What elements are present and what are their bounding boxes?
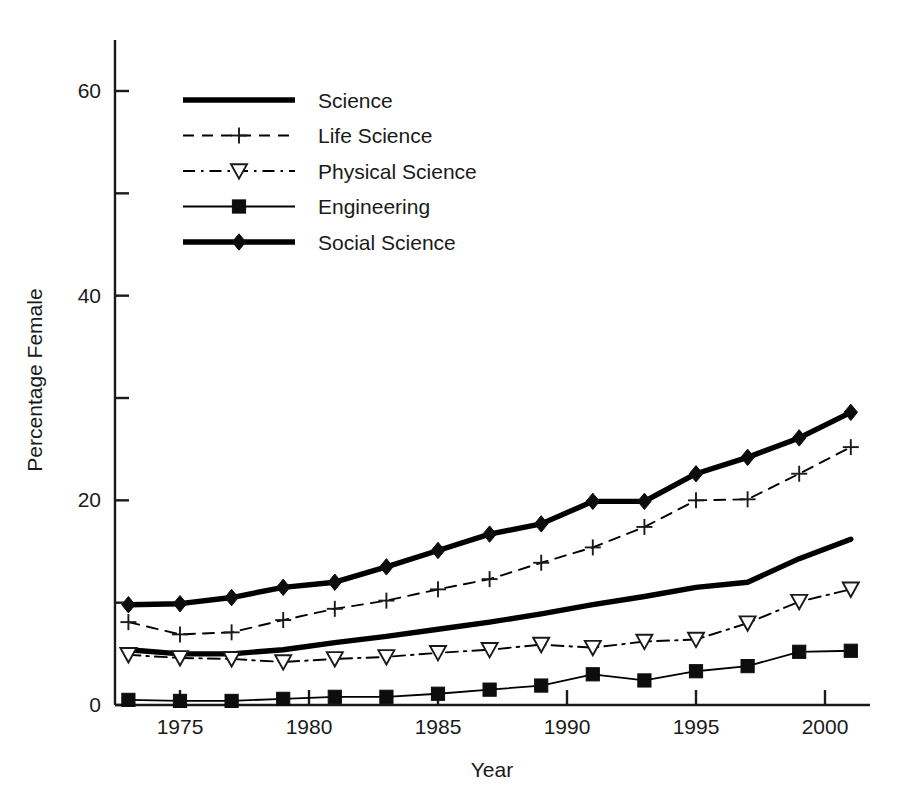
- y-tick-label: 20: [78, 488, 101, 511]
- x-tick-label: 1995: [673, 715, 720, 738]
- y-tick-label: 0: [89, 693, 101, 716]
- legend-label: Social Science: [318, 231, 456, 254]
- legend-label: Life Science: [318, 124, 432, 147]
- line-chart-canvas: 0204060 197519801985199019952000 Science…: [0, 0, 910, 808]
- legend-label: Physical Science: [318, 160, 477, 183]
- x-tick-label: 1980: [286, 715, 333, 738]
- y-tick-label: 60: [78, 79, 101, 102]
- x-tick-label: 1975: [157, 715, 204, 738]
- x-axis-title: Year: [471, 758, 513, 781]
- y-tick-label: 40: [78, 284, 101, 307]
- chart-figure: 0204060 197519801985199019952000 Science…: [0, 0, 910, 808]
- x-tick-label: 2000: [802, 715, 849, 738]
- x-tick-label: 1985: [415, 715, 462, 738]
- x-tick-label: 1990: [544, 715, 591, 738]
- y-axis-title: Percentage Female: [23, 288, 46, 471]
- legend-label: Science: [318, 89, 393, 112]
- legend-label: Engineering: [318, 195, 430, 218]
- figure-background: [0, 0, 910, 808]
